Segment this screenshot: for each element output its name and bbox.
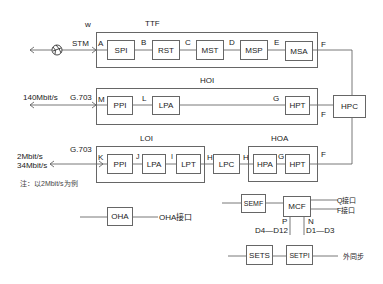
g703-hoi-label: G.703 <box>70 93 92 102</box>
ref-p: P <box>282 217 287 226</box>
hoi-ppi-block: PPI <box>107 96 133 115</box>
rate-34-label: 34Mbit/s <box>17 161 47 170</box>
ref-i: I <box>171 152 173 161</box>
q-port-label: Q接口 <box>337 196 356 205</box>
mcf-block: MCF <box>283 196 311 217</box>
ref-d: D <box>229 38 235 47</box>
hpc-block: HPC <box>333 95 366 118</box>
f-port-label: F接口 <box>337 206 355 215</box>
rate-2-label: 2Mbit/s <box>17 152 43 161</box>
hpa-block: HPA <box>253 154 277 174</box>
example-note: 注：以2Mbit/s为例 <box>20 179 78 188</box>
ref-k: K <box>98 153 103 162</box>
sets-block: SETS <box>246 245 273 265</box>
rate-140-label: 140Mbit/s <box>23 93 58 102</box>
ref-b: B <box>141 38 146 47</box>
stm-label: STM <box>72 39 89 48</box>
mst-block: MST <box>196 40 224 60</box>
hoi-hpt-block: HPT <box>285 96 310 115</box>
lpc-block: LPC <box>213 154 240 174</box>
hoa-title: HOA <box>271 134 288 143</box>
rst-block: RST <box>152 40 180 60</box>
oha-port-label: OHA接口 <box>159 213 192 222</box>
ref-w: w <box>85 20 91 29</box>
ref-f-hoi: F <box>321 110 326 119</box>
ref-f-hoa: F <box>321 150 326 159</box>
ref-g-hoa: G <box>278 152 284 161</box>
d4-d12-label: D4—D12 <box>255 226 288 235</box>
semf-block: SEMF <box>241 194 266 213</box>
g703-loi-label: G.703 <box>70 145 92 154</box>
ref-f-ttf: F <box>321 40 326 49</box>
ref-l: L <box>142 94 146 103</box>
loi-lpt-block: LPT <box>176 154 201 174</box>
spi-block: SPI <box>107 40 135 60</box>
ref-j: J <box>136 152 140 161</box>
ref-e: E <box>274 38 279 47</box>
ref-h2: H <box>243 153 249 162</box>
loi-lpa-block: LPA <box>142 154 166 174</box>
ext-sync-label: 外同步 <box>343 252 364 261</box>
ref-n: N <box>308 217 314 226</box>
loi-ppi-block: PPI <box>107 154 133 174</box>
d1-d3-label: D1—D3 <box>306 226 334 235</box>
setpi-block: SETPI <box>286 245 313 265</box>
hoi-lpa-block: LPA <box>152 96 180 115</box>
ref-a: A <box>98 39 103 48</box>
msp-block: MSP <box>240 40 268 60</box>
oha-block: OHA <box>107 207 133 226</box>
hoa-hpt-block: HPT <box>285 154 310 174</box>
hoi-title: HOI <box>200 76 214 85</box>
ref-g-hoi: G <box>273 94 279 103</box>
globe-icon <box>52 45 62 55</box>
ref-c: C <box>185 38 191 47</box>
ref-m: M <box>98 95 105 104</box>
ref-h1: H <box>207 153 213 162</box>
ttf-title: TTF <box>145 19 160 28</box>
msa-block: MSA <box>285 41 313 61</box>
loi-title: LOI <box>140 134 153 143</box>
